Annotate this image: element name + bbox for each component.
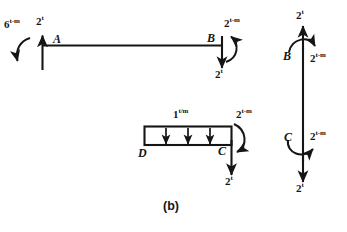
moment-arc-c-beam <box>234 124 245 152</box>
member-dc-group <box>145 124 245 175</box>
label-force-bc-bottom: 2t <box>296 182 304 194</box>
moment-arc-b <box>226 37 237 63</box>
figure-caption: (b) <box>163 200 179 213</box>
label-moment-bc-top: 2t-m <box>310 52 326 64</box>
node-label-d: D <box>138 147 147 159</box>
node-label-b-column: B <box>283 50 291 62</box>
moment-arc-a <box>17 38 30 61</box>
node-label-a: A <box>53 33 61 45</box>
node-label-c-column: C <box>284 131 292 143</box>
label-moment-bc-bottom: 2t-m <box>310 130 326 142</box>
label-udl-dc: 1t/m <box>173 108 188 120</box>
figure-container: 6t-m 2t A B 2t-m 2t 1t/m D C 2t-m 2t 2t … <box>0 0 347 232</box>
node-label-b-beam: B <box>207 32 215 44</box>
node-label-c-beam: C <box>218 145 226 157</box>
label-moment-a: 6t-m <box>4 18 20 30</box>
label-force-bc-top: 2t <box>296 9 304 21</box>
member-ab-group <box>17 36 237 71</box>
member-bc-group <box>288 26 315 182</box>
label-force-c-beam: 2t <box>225 175 233 187</box>
label-force-b: 2t <box>215 68 223 80</box>
label-moment-b: 2t-m <box>224 17 240 29</box>
label-moment-c-beam: 2t-m <box>236 108 252 120</box>
label-force-a: 2t <box>36 15 44 27</box>
